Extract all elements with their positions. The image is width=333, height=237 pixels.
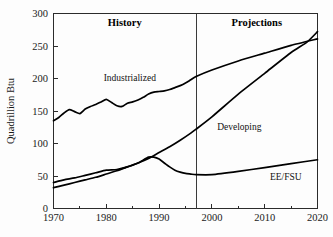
series-annotation-industrialized: Industrialized	[104, 73, 156, 83]
y-tick-label-300: 300	[32, 8, 48, 19]
y-tick-label-100: 100	[32, 138, 48, 149]
series-annotation-ee-fsu: EE/FSU	[270, 172, 302, 182]
energy-consumption-chart: 050100150200250300 197019801990200020102…	[0, 0, 333, 237]
series-line-developing	[54, 32, 318, 188]
y-tick-labels: 050100150200250300	[32, 8, 48, 214]
x-tick-label-1980: 1980	[96, 212, 117, 223]
series-annotation-developing: Developing	[217, 122, 262, 132]
y-tick-label-50: 50	[38, 171, 49, 182]
region-labels: HistoryProjections	[108, 17, 282, 28]
x-tick-label-2020: 2020	[307, 212, 328, 223]
x-tick-label-1970: 1970	[43, 212, 64, 223]
y-axis-title: Quadrillion Btu	[5, 77, 16, 144]
y-tick-label-150: 150	[32, 106, 48, 117]
y-axis-title-text: Quadrillion Btu	[5, 77, 16, 144]
x-tick-labels: 197019801990200020102020	[43, 212, 328, 223]
series-lines	[54, 32, 318, 188]
region-label-projections: Projections	[232, 17, 283, 28]
chart-canvas: 050100150200250300 197019801990200020102…	[0, 0, 333, 237]
x-tick-label-2000: 2000	[201, 212, 222, 223]
x-tick-label-1990: 1990	[149, 212, 170, 223]
region-label-history: History	[108, 17, 143, 28]
y-tick-label-200: 200	[32, 73, 48, 84]
x-tick-label-2010: 2010	[254, 212, 275, 223]
y-tick-label-250: 250	[32, 41, 48, 52]
series-line-industrialized	[54, 39, 318, 121]
